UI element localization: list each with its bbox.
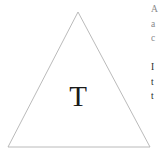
clipped-text-line: t [151, 89, 160, 104]
clipped-text-line: A [151, 2, 160, 17]
triangle-diagram [0, 0, 160, 151]
triangle-label: T [0, 82, 156, 111]
clipped-text-block-lower: I t t [151, 60, 160, 104]
clipped-text-block-upper: A a c [151, 2, 160, 46]
clipped-text-line: a [151, 17, 160, 32]
clipped-text-line: t [151, 75, 160, 90]
clipped-text-line: c [151, 31, 160, 46]
figure-page: T A a c I t t [0, 0, 160, 151]
clipped-text-line: I [151, 60, 160, 75]
